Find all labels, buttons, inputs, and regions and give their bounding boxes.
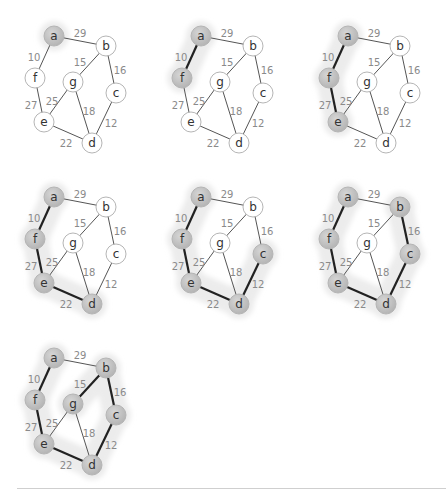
- node-label: b: [249, 200, 257, 214]
- node-c: c: [253, 244, 273, 264]
- edge-weight-g-d: 18: [83, 428, 96, 439]
- step-panel-1: 291015162725181222abfgced: [25, 21, 127, 153]
- edge-weight-b-g: 15: [368, 57, 381, 68]
- edge-weight-b-c: 16: [408, 65, 421, 76]
- node-g: g: [357, 72, 377, 92]
- node-a: a: [338, 26, 358, 46]
- edge-weight-a-f: 10: [28, 374, 41, 385]
- node-label: b: [102, 200, 110, 214]
- node-g: g: [63, 233, 83, 253]
- node-label: c: [407, 86, 414, 100]
- node-label: a: [197, 29, 204, 43]
- node-label: d: [382, 297, 390, 311]
- node-label: e: [40, 437, 47, 451]
- edge-weight-f-e: 27: [25, 422, 38, 433]
- edge-weight-b-g: 15: [74, 57, 87, 68]
- edge-weight-f-e: 27: [172, 100, 185, 111]
- edge-weight-b-c: 16: [114, 387, 127, 398]
- edge-weight-g-e: 25: [46, 257, 59, 268]
- node-label: d: [382, 136, 390, 150]
- node-f: f: [25, 68, 45, 88]
- edge-weight-f-e: 27: [172, 261, 185, 272]
- step-panel-6: 291015162725181222abfgced: [314, 182, 425, 319]
- node-e: e: [181, 112, 201, 132]
- node-c: c: [400, 244, 420, 264]
- node-b: b: [390, 36, 410, 56]
- edge-weight-f-e: 27: [25, 100, 38, 111]
- node-label: b: [249, 39, 257, 53]
- edge-weight-b-c: 16: [261, 226, 274, 237]
- node-a: a: [44, 348, 64, 368]
- node-label: c: [407, 247, 414, 261]
- edge-weight-a-f: 10: [28, 213, 41, 224]
- node-e: e: [34, 434, 54, 454]
- step-panel-5: 291015162725181222abfgced: [167, 182, 278, 319]
- node-label: e: [187, 115, 194, 129]
- edge-weight-g-e: 25: [340, 96, 353, 107]
- node-label: g: [216, 236, 224, 250]
- node-label: d: [235, 297, 243, 311]
- node-label: b: [102, 39, 110, 53]
- edge-weight-a-b: 29: [368, 28, 381, 39]
- node-label: a: [344, 190, 351, 204]
- node-a: a: [44, 26, 64, 46]
- edge-weight-a-f: 10: [322, 52, 335, 63]
- edge-weight-b-c: 16: [408, 226, 421, 237]
- edge-weight-b-g: 15: [74, 379, 87, 390]
- node-b: b: [243, 197, 263, 217]
- node-g: g: [210, 233, 230, 253]
- node-label: c: [260, 247, 267, 261]
- edge-weight-b-g: 15: [74, 218, 87, 229]
- edge-weight-c-d: 12: [252, 118, 265, 129]
- edge-weight-b-g: 15: [221, 57, 234, 68]
- node-label: d: [88, 297, 96, 311]
- node-a: a: [44, 187, 64, 207]
- node-label: g: [69, 236, 77, 250]
- edge-weight-c-d: 12: [105, 279, 118, 290]
- step-panel-4: 291015162725181222abfgced: [20, 182, 126, 319]
- edge-weight-a-b: 29: [74, 189, 87, 200]
- node-label: c: [113, 408, 120, 422]
- edge-weight-f-e: 27: [25, 261, 38, 272]
- edge-weight-a-f: 10: [175, 52, 188, 63]
- node-d: d: [82, 294, 102, 314]
- node-label: e: [334, 115, 341, 129]
- edge-weight-g-d: 18: [377, 106, 390, 117]
- edge-weight-c-d: 12: [399, 118, 412, 129]
- edge-weight-e-d: 22: [60, 460, 73, 471]
- node-c: c: [106, 405, 126, 425]
- node-c: c: [106, 244, 126, 264]
- node-d: d: [82, 455, 102, 475]
- node-f: f: [25, 229, 45, 249]
- node-d: d: [376, 294, 396, 314]
- node-g: g: [357, 233, 377, 253]
- node-e: e: [34, 273, 54, 293]
- node-g: g: [63, 72, 83, 92]
- node-e: e: [34, 112, 54, 132]
- edge-weight-b-c: 16: [114, 226, 127, 237]
- edge-weight-a-b: 29: [74, 28, 87, 39]
- node-label: g: [363, 75, 371, 89]
- node-label: g: [216, 75, 224, 89]
- node-d: d: [229, 294, 249, 314]
- step-panel-2: 291015162725181222abfgced: [167, 21, 273, 153]
- node-label: a: [50, 29, 57, 43]
- node-label: c: [260, 86, 267, 100]
- edge-weight-g-d: 18: [377, 267, 390, 278]
- node-label: c: [113, 247, 120, 261]
- edge-weight-c-d: 12: [252, 279, 265, 290]
- edge-weight-e-d: 22: [207, 299, 220, 310]
- node-label: e: [187, 276, 194, 290]
- node-label: d: [88, 458, 96, 472]
- node-f: f: [319, 68, 339, 88]
- node-b: b: [390, 197, 410, 217]
- edge-weight-a-b: 29: [221, 189, 234, 200]
- node-f: f: [172, 68, 192, 88]
- edge-weight-b-g: 15: [221, 218, 234, 229]
- node-label: e: [40, 115, 47, 129]
- edge-weight-c-d: 12: [105, 118, 118, 129]
- node-label: e: [40, 276, 47, 290]
- node-label: d: [235, 136, 243, 150]
- node-a: a: [338, 187, 358, 207]
- edge-weight-a-b: 29: [221, 28, 234, 39]
